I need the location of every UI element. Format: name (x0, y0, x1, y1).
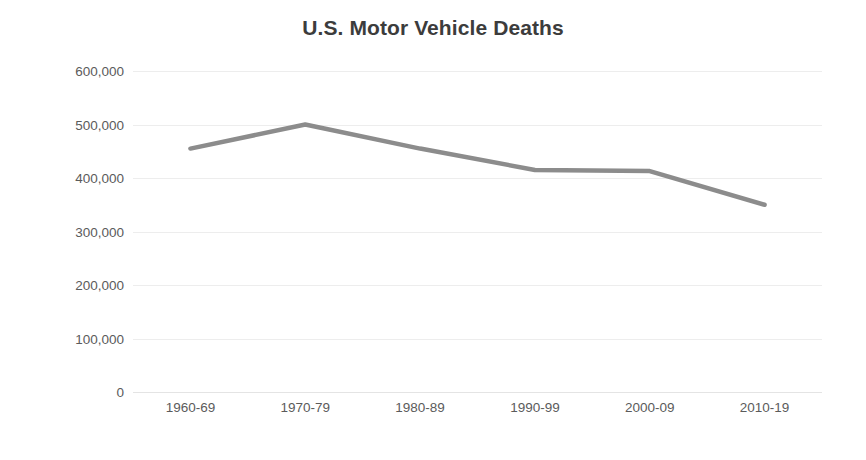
x-axis-tick-label: 1980-89 (395, 400, 445, 415)
y-axis-tick-label: 300,000 (0, 224, 124, 239)
x-axis-tick-label: 2010-19 (740, 400, 790, 415)
y-axis-labels: 0100,000200,000300,000400,000500,000600,… (0, 71, 124, 392)
y-axis-tick-label: 200,000 (0, 278, 124, 293)
data-line-series-deaths (190, 125, 764, 205)
y-axis-tick-label: 0 (0, 385, 124, 400)
x-axis-tick-label: 1960-69 (166, 400, 216, 415)
plot-area (133, 71, 822, 392)
chart-container: U.S. Motor Vehicle Deaths 0100,000200,00… (0, 0, 866, 460)
x-axis-tick-label: 2000-09 (625, 400, 675, 415)
x-axis-tick-label: 1990-99 (510, 400, 560, 415)
chart-title: U.S. Motor Vehicle Deaths (0, 16, 866, 40)
y-axis-tick-label: 500,000 (0, 117, 124, 132)
y-axis-tick-label: 100,000 (0, 331, 124, 346)
x-axis-labels: 1960-691970-791980-891990-992000-092010-… (133, 400, 822, 424)
y-axis-tick-label: 400,000 (0, 171, 124, 186)
x-axis-tick-label: 1970-79 (280, 400, 330, 415)
data-line-svg (133, 71, 822, 392)
gridline (133, 392, 822, 393)
y-axis-tick-label: 600,000 (0, 64, 124, 79)
